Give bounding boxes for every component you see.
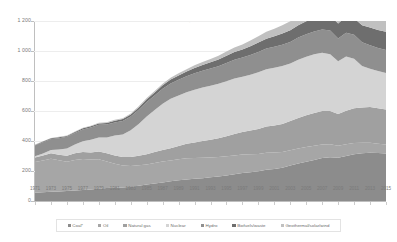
legend-item[interactable]: Nuclear: [166, 223, 186, 228]
legend-swatch-icon: [98, 224, 101, 227]
y-tick-mark: [31, 21, 34, 22]
x-tick-mark: [163, 202, 164, 205]
x-tick-mark: [338, 202, 339, 205]
y-axis-tick-label: 800: [0, 78, 31, 83]
y-axis-tick-label: 1 000: [0, 48, 31, 53]
x-tick-mark: [147, 202, 148, 205]
y-tick-mark: [31, 141, 34, 142]
x-tick-mark: [354, 202, 355, 205]
legend-item[interactable]: Hydro: [201, 223, 218, 228]
legend-label: Nuclear: [171, 223, 186, 228]
x-tick-mark: [242, 202, 243, 205]
x-tick-mark: [131, 202, 132, 205]
x-tick-mark: [226, 202, 227, 205]
y-axis-tick-label: 1 200: [0, 18, 31, 23]
legend-label: Hydro: [206, 223, 218, 228]
legend-label: Coal*: [72, 223, 83, 228]
legend-swatch-icon: [68, 224, 71, 227]
x-axis-tick-label: 2015: [375, 186, 397, 191]
plot-area: [34, 21, 386, 202]
x-tick-mark: [51, 202, 52, 205]
legend-label: Biofuels/waste: [237, 223, 265, 228]
area-series-group: [35, 21, 386, 201]
x-tick-mark: [274, 202, 275, 205]
legend-swatch-icon: [166, 224, 169, 227]
y-tick-mark: [31, 201, 34, 202]
x-tick-mark: [99, 202, 100, 205]
y-tick-mark: [31, 81, 34, 82]
legend-label: Oil: [103, 223, 108, 228]
legend-item[interactable]: Coal*: [68, 223, 84, 228]
legend-label: Geothermal/solar/wind: [285, 223, 329, 228]
decorative-mark: ·: [189, 22, 191, 24]
x-tick-mark: [386, 202, 387, 205]
legend-label: Natural gas: [128, 223, 150, 228]
y-tick-mark: [31, 51, 34, 52]
y-tick-mark: [31, 111, 34, 112]
x-tick-mark: [370, 202, 371, 205]
x-tick-mark: [258, 202, 259, 205]
x-tick-mark: [179, 202, 180, 205]
legend-item[interactable]: Oil: [98, 223, 108, 228]
legend-item[interactable]: Natural gas: [123, 223, 150, 228]
legend-swatch-icon: [281, 224, 284, 227]
stacked-area-chart: 02004006008001 0001 200 1971197319751977…: [0, 0, 397, 242]
x-tick-mark: [35, 202, 36, 205]
y-axis-tick-label: 0: [0, 198, 31, 203]
x-tick-mark: [67, 202, 68, 205]
x-tick-mark: [115, 202, 116, 205]
x-tick-mark: [195, 202, 196, 205]
y-axis-tick-label: 400: [0, 138, 31, 143]
x-tick-mark: [322, 202, 323, 205]
legend-swatch-icon: [123, 224, 126, 227]
chart-legend: Coal*OilNatural gasNuclearHydroBiofuels/…: [56, 219, 341, 232]
x-tick-mark: [306, 202, 307, 205]
y-axis-tick-label: 600: [0, 108, 31, 113]
x-tick-mark: [83, 202, 84, 205]
legend-item[interactable]: Biofuels/waste: [232, 223, 265, 228]
y-tick-mark: [31, 171, 34, 172]
legend-swatch-icon: [232, 224, 235, 227]
y-axis-tick-label: 200: [0, 168, 31, 173]
legend-swatch-icon: [201, 224, 204, 227]
x-tick-mark: [290, 202, 291, 205]
legend-item[interactable]: Geothermal/solar/wind: [281, 223, 330, 228]
x-tick-mark: [211, 202, 212, 205]
